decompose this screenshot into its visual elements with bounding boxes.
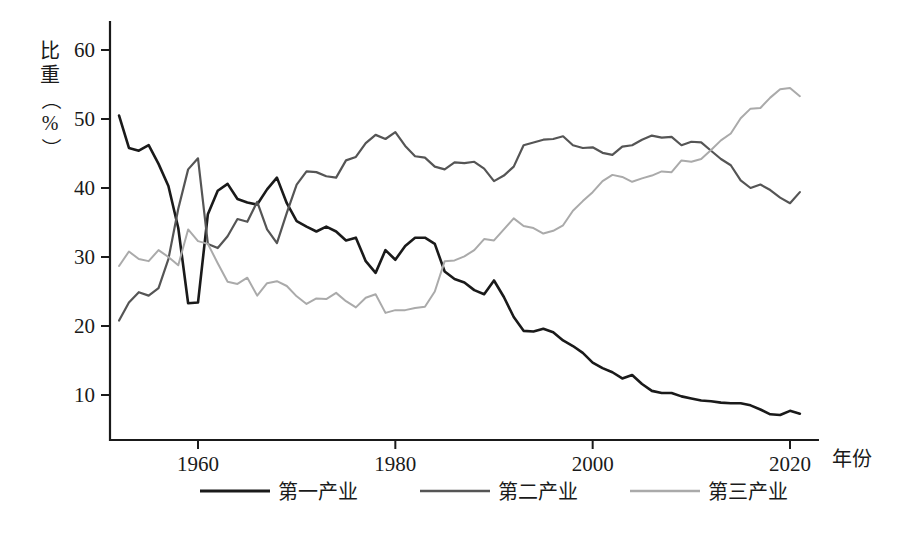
y-tick-label: 60 xyxy=(74,38,95,62)
chart-legend: 第一产业第二产业第三产业 xyxy=(200,481,788,503)
y-axis-ticks: 102030405060 xyxy=(74,38,110,407)
series-line-第三产业 xyxy=(119,88,800,313)
x-tick-label: 1980 xyxy=(374,452,416,476)
y-tick-label: 50 xyxy=(74,107,95,131)
y-axis-label-char: 重 xyxy=(40,64,60,86)
line-chart: 比重（%） 102030405060 1960198020002020 年份 第… xyxy=(0,0,902,542)
data-series xyxy=(119,88,800,415)
x-tick-label: 2000 xyxy=(572,452,614,476)
y-tick-label: 40 xyxy=(74,176,95,200)
x-axis-ticks: 1960198020002020 xyxy=(177,440,811,476)
chart-canvas: 比重（%） 102030405060 1960198020002020 年份 第… xyxy=(0,0,902,542)
y-axis-label-char: （ xyxy=(40,90,62,110)
y-tick-label: 10 xyxy=(74,383,95,407)
legend-label-第二产业: 第二产业 xyxy=(498,481,578,503)
y-tick-label: 20 xyxy=(74,314,95,338)
y-axis-label-char: % xyxy=(42,112,59,134)
legend-label-第一产业: 第一产业 xyxy=(278,481,358,503)
x-axis-title: 年份 xyxy=(832,448,872,470)
legend-label-第三产业: 第三产业 xyxy=(708,481,788,503)
y-axis-label-char: ） xyxy=(40,138,62,158)
axis-lines xyxy=(110,22,818,440)
x-tick-label: 2020 xyxy=(769,452,811,476)
y-axis-label: 比重（%） xyxy=(40,40,62,158)
y-tick-label: 30 xyxy=(74,245,95,269)
x-tick-label: 1960 xyxy=(177,452,219,476)
y-axis-label-char: 比 xyxy=(40,40,60,62)
